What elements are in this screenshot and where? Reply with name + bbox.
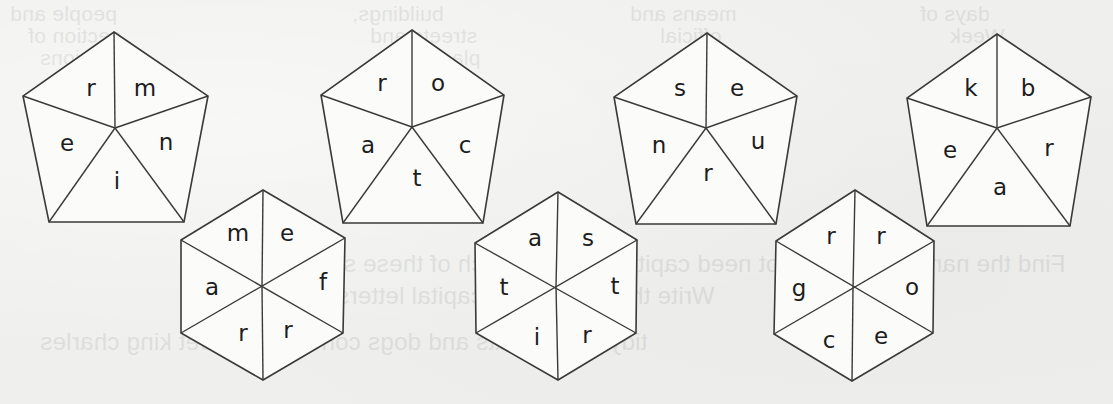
segment-letter: r — [283, 317, 293, 343]
segment-letter: i — [114, 168, 120, 194]
hexagon-puzzle-3: r r o e c g — [774, 190, 934, 381]
segment-letter: r — [876, 223, 886, 249]
segment-letter: e — [874, 323, 888, 349]
segment-letter: b — [1021, 75, 1036, 101]
segment-letter: f — [319, 269, 328, 295]
segment-letter: o — [431, 70, 445, 96]
segment-letter: s — [674, 75, 686, 101]
segment-letter: e — [730, 75, 744, 101]
segment-letter: i — [534, 324, 540, 350]
segment-letter: t — [412, 165, 421, 191]
segment-letter: a — [361, 132, 375, 158]
pentagon-puzzle-3: s e u r n — [614, 33, 797, 224]
pentagon-puzzle-1: r m n i e — [23, 32, 208, 222]
segment-letter: o — [905, 274, 919, 300]
segment-letter: g — [792, 275, 807, 301]
segment-letter: s — [582, 225, 594, 251]
segment-letter: n — [159, 129, 174, 155]
segment-letter: a — [993, 174, 1007, 200]
segment-letter: e — [943, 137, 957, 163]
segment-letter: n — [652, 132, 667, 158]
segment-letter: e — [280, 220, 294, 246]
segment-letter: a — [205, 274, 219, 300]
segment-letter: c — [459, 132, 472, 158]
segment-letter: k — [964, 75, 978, 101]
segment-letter: u — [751, 128, 766, 154]
segment-letter: a — [528, 225, 542, 251]
word-puzzle-diagram: r m n i e r o c t a s — [0, 0, 1113, 404]
segment-letter: r — [377, 70, 387, 96]
pentagon-puzzle-4: k b r a e — [907, 34, 1091, 226]
segment-letter: r — [238, 320, 248, 346]
segment-letter: t — [610, 273, 619, 299]
segment-letter: c — [823, 327, 836, 353]
segment-letter: m — [134, 75, 156, 101]
segment-letter: r — [86, 75, 96, 101]
worksheet-page: people and section of fashions buildings… — [0, 0, 1113, 404]
segment-letter: r — [826, 223, 836, 249]
hexagon-puzzle-2: a s t r i t — [475, 192, 637, 380]
hexagon-puzzle-1: m e f r r a — [181, 190, 345, 380]
segment-letter: r — [582, 322, 592, 348]
segment-letter: t — [499, 274, 508, 300]
segment-letter: r — [703, 160, 713, 186]
segment-letter: r — [1044, 135, 1054, 161]
segment-letter: e — [60, 130, 74, 156]
segment-letter: m — [227, 220, 249, 246]
pentagon-puzzle-2: r o c t a — [321, 30, 504, 223]
